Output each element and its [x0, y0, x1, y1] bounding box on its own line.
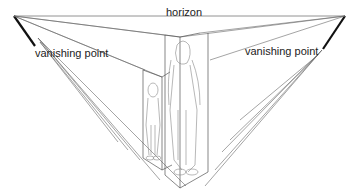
child-bounding-box [143, 70, 172, 170]
left-perspective-lines [14, 16, 186, 186]
horizon-label: horizon [166, 7, 202, 18]
adult-figure [168, 41, 200, 175]
adult-bounding-box [165, 33, 208, 188]
perspective-diagram [0, 0, 359, 194]
right-vanishing-point-marker [323, 16, 345, 49]
right-vanishing-point-label: vanishing point [245, 46, 318, 57]
right-perspective-lines [180, 16, 345, 186]
left-vanishing-point-label: vanishing point [35, 48, 108, 59]
child-figure [146, 83, 161, 160]
